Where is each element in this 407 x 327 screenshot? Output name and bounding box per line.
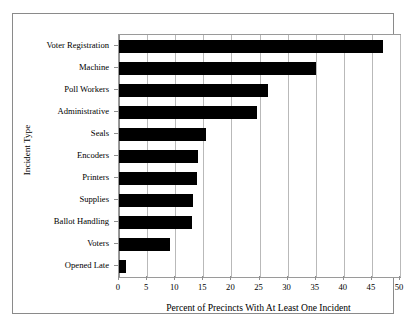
- y-tick-label: Ballot Handling: [54, 210, 109, 232]
- x-tick-label: 15: [187, 282, 217, 292]
- bar: [119, 172, 197, 185]
- bar: [119, 40, 383, 53]
- y-tick-label: Poll Workers: [64, 78, 109, 100]
- bar: [119, 238, 170, 251]
- x-tick-label: 20: [215, 282, 245, 292]
- y-tick-mark: [114, 199, 118, 200]
- bar-row: [119, 123, 400, 145]
- x-tick-mark: [174, 276, 175, 280]
- y-tick-mark: [114, 67, 118, 68]
- x-tick-label: 5: [131, 282, 161, 292]
- bar-series: [119, 35, 400, 277]
- bar: [119, 194, 193, 207]
- y-tick-label: Supplies: [79, 188, 109, 210]
- y-axis-category-labels: Voter RegistrationMachinePoll WorkersAdm…: [13, 34, 114, 276]
- x-tick-label: 35: [300, 282, 330, 292]
- chart-figure: Incident Type Voter RegistrationMachineP…: [0, 0, 407, 327]
- bar: [119, 128, 206, 141]
- plot-area: [118, 34, 401, 278]
- y-tick-mark: [114, 89, 118, 90]
- bar: [119, 216, 192, 229]
- x-tick-mark: [343, 276, 344, 280]
- x-tick-mark: [315, 276, 316, 280]
- x-axis-title: Percent of Precincts With At Least One I…: [118, 302, 399, 313]
- y-tick-mark: [114, 133, 118, 134]
- bar-row: [119, 211, 400, 233]
- bar: [119, 106, 257, 119]
- bar-row: [119, 189, 400, 211]
- y-tick-label: Encoders: [77, 144, 109, 166]
- y-tick-mark: [114, 265, 118, 266]
- bar-row: [119, 79, 400, 101]
- x-tick-label: 40: [328, 282, 358, 292]
- y-tick-mark: [114, 45, 118, 46]
- bar-row: [119, 145, 400, 167]
- y-tick-mark: [114, 155, 118, 156]
- gridline-50: [400, 35, 401, 277]
- y-tick-mark: [114, 221, 118, 222]
- y-tick-label: Administrative: [57, 100, 109, 122]
- bar-row: [119, 255, 400, 277]
- y-tick-label: Voters: [87, 232, 109, 254]
- x-tick-label: 10: [159, 282, 189, 292]
- y-tick-mark: [114, 111, 118, 112]
- bar: [119, 84, 268, 97]
- x-tick-label: 0: [103, 282, 133, 292]
- x-tick-mark: [259, 276, 260, 280]
- bar-row: [119, 35, 400, 57]
- figure-border: Incident Type Voter RegistrationMachineP…: [12, 13, 394, 314]
- x-tick-label: 50: [384, 282, 407, 292]
- x-tick-mark: [146, 276, 147, 280]
- bar: [119, 260, 126, 273]
- x-tick-mark: [287, 276, 288, 280]
- y-tick-mark: [114, 177, 118, 178]
- x-tick-mark: [371, 276, 372, 280]
- y-tick-mark: [114, 243, 118, 244]
- y-tick-label: Voter Registration: [46, 34, 109, 56]
- bar-row: [119, 101, 400, 123]
- x-tick-label: 45: [356, 282, 386, 292]
- x-tick-mark: [202, 276, 203, 280]
- bar: [119, 150, 198, 163]
- bar-row: [119, 233, 400, 255]
- y-tick-label: Opened Late: [65, 254, 109, 276]
- y-tick-label: Printers: [82, 166, 109, 188]
- x-tick-mark: [230, 276, 231, 280]
- bar: [119, 62, 316, 75]
- bar-row: [119, 57, 400, 79]
- x-tick-mark: [118, 276, 119, 280]
- y-tick-label: Machine: [79, 56, 109, 78]
- bar-row: [119, 167, 400, 189]
- x-tick-mark: [399, 276, 400, 280]
- y-tick-label: Seals: [91, 122, 109, 144]
- x-tick-label: 25: [244, 282, 274, 292]
- x-tick-label: 30: [272, 282, 302, 292]
